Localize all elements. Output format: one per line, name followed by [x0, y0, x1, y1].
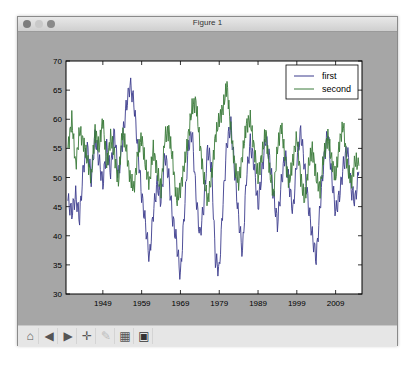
x-tick-label: 1969	[172, 299, 190, 308]
x-tick-label: 1989	[249, 299, 267, 308]
line-chart: 303540455055606570 194919591969197919891…	[18, 32, 397, 325]
x-tick-label: 1979	[210, 299, 228, 308]
window-title: Figure 1	[18, 18, 397, 27]
subplots-button[interactable]: ▦	[117, 328, 134, 344]
navigation-toolbar: ⌂◀▶✛✎▦▣	[18, 325, 397, 346]
forward-icon: ▶	[63, 329, 72, 343]
back-button[interactable]: ◀	[41, 328, 58, 344]
pan-button[interactable]: ✛	[79, 328, 96, 344]
x-tick-label: 2009	[327, 299, 345, 308]
y-tick-label: 55	[53, 144, 62, 153]
pan-icon: ✛	[82, 329, 92, 343]
forward-button[interactable]: ▶	[60, 328, 77, 344]
home-icon: ⌂	[26, 329, 33, 343]
y-tick-label: 35	[53, 261, 62, 270]
x-tick-label: 1949	[94, 299, 112, 308]
x-tick-label: 1959	[133, 299, 151, 308]
x-tick-label: 1999	[288, 299, 306, 308]
subplots-icon: ▦	[119, 329, 130, 343]
zoom-rect-button[interactable]: ✎	[98, 328, 115, 344]
y-tick-label: 70	[53, 57, 62, 66]
save-icon: ▣	[138, 329, 149, 343]
save-button[interactable]: ▣	[136, 328, 153, 344]
figure-window: Figure 1 303540455055606570 194919591969…	[17, 16, 398, 346]
y-tick-label: 60	[53, 115, 62, 124]
y-tick-label: 30	[53, 290, 62, 299]
legend-label: first	[322, 71, 337, 81]
y-tick-label: 40	[53, 232, 62, 241]
y-tick-label: 50	[53, 174, 62, 183]
back-icon: ◀	[44, 329, 53, 343]
zoom-rect-icon: ✎	[101, 329, 111, 343]
y-tick-label: 65	[53, 86, 62, 95]
title-bar[interactable]: Figure 1	[18, 17, 397, 32]
figure-canvas[interactable]: 303540455055606570 194919591969197919891…	[18, 32, 397, 325]
y-tick-label: 45	[53, 203, 62, 212]
legend: firstsecond	[286, 65, 358, 99]
legend-label: second	[322, 84, 351, 94]
home-button[interactable]: ⌂	[22, 328, 39, 344]
